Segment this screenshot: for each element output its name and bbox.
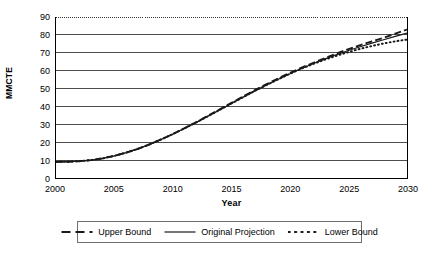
y-tick-label: 90 — [4, 13, 50, 22]
x-tick-label: 2010 — [153, 184, 193, 194]
legend-label: Lower Bound — [325, 228, 378, 237]
legend-label: Original Projection — [201, 228, 275, 237]
x-tick-label: 2030 — [388, 184, 428, 194]
x-tick-label: 2020 — [270, 184, 310, 194]
x-axis-title: Year — [55, 198, 408, 208]
x-tick-label: 2015 — [212, 184, 252, 194]
y-tick-label: 70 — [4, 49, 50, 58]
legend-swatch-solid-icon — [164, 228, 196, 236]
y-tick-label: 50 — [4, 85, 50, 94]
legend-swatch-dotted-icon — [288, 228, 320, 236]
y-tick-label: 30 — [4, 121, 50, 130]
y-tick-label: 20 — [4, 139, 50, 148]
chart-legend: Upper BoundOriginal ProjectionLower Boun… — [77, 221, 362, 243]
y-tick-label: 60 — [4, 67, 50, 76]
y-tick-label: 0 — [4, 175, 50, 184]
x-tick-label: 2005 — [94, 184, 134, 194]
plot-canvas — [56, 17, 407, 178]
x-tick-label: 2000 — [35, 184, 75, 194]
legend-entry: Upper Bound — [61, 228, 151, 237]
legend-label: Upper Bound — [98, 228, 151, 237]
x-axis-tick-labels: 2000200520102015202020252030 — [55, 184, 408, 198]
y-tick-label: 40 — [4, 103, 50, 112]
line-chart: MMCTE 0102030405060708090 20002005201020… — [0, 0, 436, 255]
y-tick-label: 10 — [4, 157, 50, 166]
y-tick-label: 80 — [4, 31, 50, 40]
legend-swatch-dashed-icon — [61, 228, 93, 236]
y-axis-tick-labels: 0102030405060708090 — [0, 17, 50, 179]
legend-entry: Original Projection — [164, 228, 275, 237]
plot-area — [55, 17, 408, 179]
x-tick-label: 2025 — [329, 184, 369, 194]
legend-entry: Lower Bound — [288, 228, 378, 237]
